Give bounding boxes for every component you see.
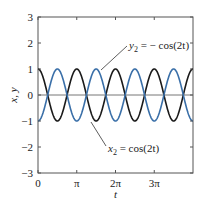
y-axis-label: x, y: [7, 87, 19, 103]
y-tick-label: 2: [28, 37, 34, 49]
x-tick-label: π: [74, 177, 80, 189]
y2-annotation-leader: [101, 46, 127, 70]
y-tick-label: 1: [28, 63, 34, 75]
x2-annotation-leader: [91, 122, 106, 146]
y2-annotation: y2 = − cos(2t): [128, 39, 189, 54]
chart: 3210−1−2−3 0π2π3π t x, y y2 = − cos(2t) …: [0, 0, 204, 214]
x-tick-label: 3π: [149, 177, 161, 189]
x2-annotation: x2 = cos(2t): [107, 142, 159, 157]
x-axis-label: t: [114, 188, 118, 200]
y-tick-label: −3: [21, 167, 33, 179]
y-tick-label: −2: [21, 141, 33, 153]
y-tick-label: 0: [28, 89, 34, 101]
y-tick-label: −1: [21, 115, 33, 127]
y-tick-label: 3: [28, 11, 34, 23]
x-tick-label: 0: [35, 177, 41, 189]
